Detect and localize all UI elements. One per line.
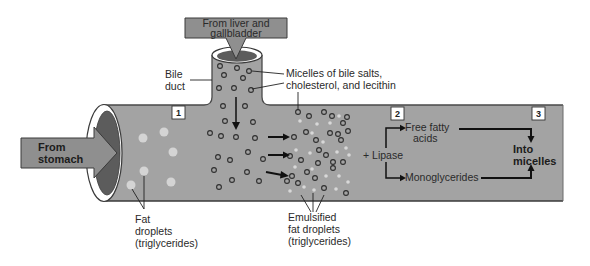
fat-droplets-label-line1: Fat — [135, 213, 150, 225]
into-micelles-label-line1: Into — [513, 143, 533, 155]
liver-gallbladder-arrow: From liver and gallbladder — [185, 17, 287, 59]
liver-arrow-label-line2: gallbladder — [210, 27, 262, 39]
into-micelles-label-line2: micelles — [513, 155, 556, 167]
fat-droplets-label-line2: droplets — [135, 225, 172, 237]
bile-duct-callout: Bile duct — [165, 68, 212, 92]
free-fatty-acids-label-line2: acids — [413, 132, 438, 144]
step-number-3: 3 — [536, 109, 541, 119]
micelles-label-line2: cholesterol, and lecithin — [286, 79, 396, 91]
step-box-3: 3 — [532, 107, 545, 120]
step-number-2: 2 — [395, 109, 400, 119]
micelles-callout: Micelles of bile salts, cholesterol, and… — [252, 67, 396, 110]
stomach-arrow-label-line2: stomach — [38, 153, 84, 165]
monoglycerides-label: Monoglycerides — [405, 171, 479, 183]
micelles-label-line1: Micelles of bile salts, — [286, 67, 382, 79]
fat-droplets-label-line3: (triglycerides) — [135, 237, 198, 249]
stomach-arrow-label-line1: From — [38, 141, 66, 153]
step-box-2: 2 — [391, 107, 404, 120]
emulsified-label-line2: fat droplets — [288, 223, 340, 235]
emulsified-label-line3: (triglycerides) — [288, 235, 351, 247]
step-box-1: 1 — [172, 106, 185, 119]
bile-duct-label-line2: duct — [165, 80, 185, 92]
bile-duct-label-line1: Bile — [165, 68, 183, 80]
lipase-label: + Lipase — [363, 149, 403, 161]
emulsified-label-line1: Emulsified — [288, 211, 337, 223]
fat-digestion-diagram: From liver and gallbladder From stomach — [0, 0, 590, 266]
step-number-1: 1 — [176, 108, 181, 118]
